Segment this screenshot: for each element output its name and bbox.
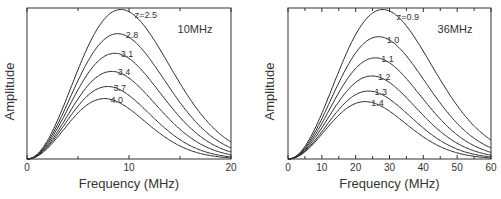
x-tick-label: 10 bbox=[316, 162, 328, 173]
curve-label: z=2.5 bbox=[135, 10, 157, 20]
x-tick-label: 0 bbox=[24, 162, 30, 173]
y-axis-label: Amplitude bbox=[2, 63, 17, 121]
curve-label: 1.0 bbox=[387, 35, 400, 45]
x-tick-label: 50 bbox=[452, 162, 464, 173]
y-axis-label: Amplitude bbox=[262, 63, 277, 121]
curve-label: 1.2 bbox=[378, 72, 391, 82]
panel-label: 10MHz bbox=[178, 23, 213, 35]
curve-label: 1.3 bbox=[375, 87, 388, 97]
panel-label: 36MHz bbox=[438, 23, 473, 35]
curve-label: 2.8 bbox=[126, 30, 139, 40]
x-tick-label: 60 bbox=[485, 162, 497, 173]
curve-label: 1.1 bbox=[381, 54, 394, 64]
series-curve bbox=[27, 71, 231, 159]
curve-label: 1.4 bbox=[371, 98, 384, 108]
curve-label: 3.1 bbox=[121, 49, 134, 59]
x-tick-label: 20 bbox=[225, 162, 237, 173]
curve-label: z=0.9 bbox=[397, 12, 419, 22]
x-axis-label: Frequency (MHz) bbox=[339, 176, 439, 191]
figure: 01020z=2.52.83.13.43.74.010MHzFrequency … bbox=[0, 0, 501, 199]
series-curve bbox=[27, 87, 231, 160]
x-axis-label: Frequency (MHz) bbox=[79, 176, 179, 191]
x-tick-label: 20 bbox=[350, 162, 362, 173]
curve-label: 3.7 bbox=[114, 83, 127, 93]
chart-panel-36mhz: 0102030405060z=0.91.01.11.21.31.436MHzFr… bbox=[262, 8, 497, 191]
x-tick-label: 40 bbox=[418, 162, 430, 173]
series-curve bbox=[288, 76, 491, 159]
chart-panel-10mhz: 01020z=2.52.83.13.43.74.010MHzFrequency … bbox=[2, 8, 237, 191]
curve-label: 3.4 bbox=[118, 67, 131, 77]
x-tick-label: 0 bbox=[285, 162, 291, 173]
curve-label: 4.0 bbox=[111, 95, 124, 105]
x-tick-label: 10 bbox=[123, 162, 135, 173]
x-tick-label: 30 bbox=[384, 162, 396, 173]
